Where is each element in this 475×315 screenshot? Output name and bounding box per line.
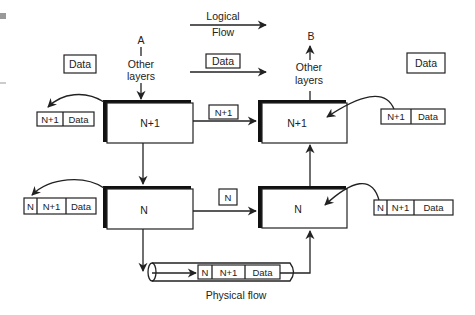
- pdu-lower-right-header-n1: N+1: [392, 202, 410, 213]
- pdu-lower-left-data: Data: [71, 201, 92, 212]
- other-layers-b-line2: layers: [295, 74, 323, 86]
- data-label-right: Data: [415, 57, 437, 69]
- pdu-upper-right: N+1 Data: [381, 109, 445, 124]
- pdu-lower-left: N N+1 Data: [24, 198, 96, 214]
- other-layers-a-line1: Other: [128, 58, 155, 70]
- protocol-layer-diagram: Logical Flow Data Data Data A Other laye…: [0, 0, 475, 315]
- logical-data-arrow: Data: [190, 54, 266, 72]
- data-label-left: Data: [69, 58, 91, 70]
- layer-box-top-right: N+1: [258, 100, 347, 143]
- peer-header-upper-label: N+1: [215, 107, 233, 118]
- layer-label-bottom-right: N: [294, 203, 302, 215]
- pdu-lower-right-data: Data: [423, 202, 444, 213]
- pdu-lower-left-header-n: N: [27, 201, 34, 212]
- logical-flow-arrow: Logical Flow: [190, 10, 266, 38]
- other-layers-a-line2: layers: [127, 70, 155, 82]
- pdu-upper-left: N+1 Data: [37, 112, 94, 126]
- pdu-physical-header-n1: N+1: [220, 267, 238, 278]
- layer-label-bottom-left: N: [140, 204, 148, 216]
- pdu-lower-left-header-n1: N+1: [43, 201, 61, 212]
- pdu-upper-right-header: N+1: [387, 111, 405, 122]
- other-layers-b-line1: Other: [296, 61, 323, 73]
- layer-label-top-right: N+1: [287, 117, 307, 129]
- physical-flow-label: Physical flow: [206, 289, 267, 301]
- pdu-lower-right-header-n: N: [377, 202, 384, 213]
- pdu-physical-header-n: N: [202, 267, 209, 278]
- layer-label-top-left: N+1: [140, 117, 160, 129]
- layer-box-bottom-left: N: [103, 186, 193, 229]
- pdu-lower-right: N N+1 Data: [374, 200, 453, 215]
- logical-flow-label-line2: Flow: [212, 26, 235, 38]
- pdu-physical-data: Data: [252, 267, 273, 278]
- scan-mark: [0, 13, 6, 19]
- data-label-middle: Data: [212, 55, 234, 67]
- endpoint-b-label: B: [307, 30, 314, 42]
- pdu-upper-left-header: N+1: [41, 114, 59, 125]
- layer-box-top-left: N+1: [103, 100, 193, 143]
- physical-pipe: N N+1 Data: [143, 229, 310, 281]
- endpoint-a-label: A: [137, 34, 144, 46]
- peer-header-lower-label: N: [225, 192, 232, 203]
- layer-box-bottom-right: N: [258, 186, 347, 228]
- pdu-upper-right-data: Data: [418, 111, 439, 122]
- logical-flow-label-line1: Logical: [206, 10, 239, 22]
- pdu-upper-left-data: Data: [68, 114, 89, 125]
